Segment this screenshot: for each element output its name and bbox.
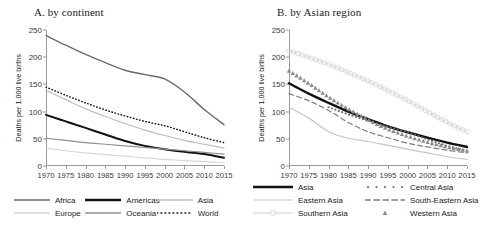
- legend-item-south-eastern-asia[interactable]: South-Eastern Asia: [365, 195, 477, 205]
- x-tick-label: 2000: [399, 171, 416, 180]
- data-point-marker: [338, 110, 340, 112]
- y-tick-label: 250: [29, 26, 42, 35]
- x-tick-label: 2010: [196, 171, 213, 180]
- x-tick-mark: [289, 166, 290, 169]
- data-point-marker: [430, 141, 434, 145]
- legend-key-glyph: [85, 208, 121, 218]
- series-asia: [46, 90, 224, 148]
- legend-item-europe[interactable]: Europe: [14, 208, 85, 218]
- x-tick-mark: [46, 166, 47, 169]
- data-point-marker: [408, 135, 412, 139]
- x-tick-label: 2005: [419, 171, 436, 180]
- y-tick-label: 0: [38, 162, 42, 171]
- plot-area-a: Deaths per 1,000 live births 05010015020…: [46, 30, 224, 166]
- legend-key-glyph: [253, 208, 293, 218]
- series-lines-b: [289, 30, 467, 166]
- x-tick-mark: [86, 166, 87, 169]
- data-point-marker: [421, 136, 423, 138]
- x-tick-mark: [165, 166, 166, 169]
- legend-item-southern-asia[interactable]: Southern Asia: [253, 208, 365, 218]
- y-tick-label: 100: [272, 107, 285, 116]
- legend-label: Americas: [126, 196, 159, 205]
- data-point-marker: [324, 93, 328, 97]
- series-line: [289, 51, 467, 132]
- series-line: [46, 35, 224, 124]
- legend-key-solid-dark-gray-icon: [14, 195, 50, 205]
- data-point-marker: [327, 106, 329, 108]
- series-world: [46, 87, 224, 142]
- legend-item-africa[interactable]: Africa: [14, 195, 85, 205]
- x-tick-label: 1985: [340, 171, 357, 180]
- legend-label: World: [198, 209, 219, 218]
- series-line: [46, 90, 224, 148]
- legend-key-dashed-gray-icon: [365, 195, 405, 205]
- legend-key-glyph: [157, 195, 193, 205]
- plot-area-b: Deaths per 1,000 live births 05010015020…: [289, 30, 467, 166]
- legend-label: South-Eastern Asia: [410, 196, 478, 205]
- legend-key-solid-mid-gray-icon: [85, 208, 121, 218]
- x-tick-mark: [224, 166, 225, 169]
- legend-item-asia[interactable]: Asia: [253, 182, 365, 192]
- data-point-marker: [339, 103, 343, 107]
- data-point-marker: [400, 129, 402, 131]
- legend-item-western-asia[interactable]: Western Asia: [365, 208, 477, 218]
- legend-label: Asia: [198, 196, 214, 205]
- data-point-marker: [306, 81, 310, 85]
- series-lines-a: [46, 30, 224, 166]
- panel-b-by-asian-region: B. by Asian region Deaths per 1,000 live…: [243, 0, 485, 225]
- data-point-marker: [328, 96, 332, 100]
- legend-row: Southern AsiaWestern Asia: [253, 208, 477, 218]
- x-tick-label: 2000: [156, 171, 173, 180]
- data-point-marker: [404, 133, 408, 137]
- legend-key-solid-thin-light-gray-icon: [253, 195, 293, 205]
- x-tick-mark: [348, 166, 349, 169]
- legend-item-eastern-asia[interactable]: Eastern Asia: [253, 195, 365, 205]
- x-tick-mark: [447, 166, 448, 169]
- data-point-marker: [334, 109, 336, 111]
- legend-item-world[interactable]: World: [157, 208, 228, 218]
- legend-item-central-asia[interactable]: Central Asia: [365, 182, 477, 192]
- data-point-marker: [351, 109, 355, 113]
- series-europe: [46, 148, 224, 163]
- y-tick-label: 200: [29, 53, 42, 62]
- x-tick-label: 1980: [320, 171, 337, 180]
- series-line: [46, 87, 224, 142]
- data-point-marker: [294, 73, 298, 77]
- data-point-marker: [447, 145, 451, 149]
- data-point-marker: [309, 83, 313, 87]
- data-point-marker: [417, 137, 421, 141]
- x-tick-mark: [467, 166, 468, 169]
- data-point-marker: [414, 134, 416, 136]
- series-africa: [46, 35, 224, 124]
- legend-row: AfricaAmericasAsia: [14, 195, 228, 205]
- x-tick-label: 1975: [300, 171, 317, 180]
- series-line: [289, 83, 467, 147]
- legend-key-solid-light-gray-icon: [157, 195, 193, 205]
- legend-key-glyph: [85, 195, 121, 205]
- legend-key-line-circle-marker-icon: [253, 208, 293, 218]
- legend-key-glyph: [365, 208, 405, 218]
- legend-key-triangle-marker-icon: [365, 208, 405, 218]
- x-tick-mark: [145, 166, 146, 169]
- legend-label: Europe: [55, 209, 81, 218]
- legend-a: AfricaAmericasAsiaEuropeOceaniaWorld: [14, 195, 228, 221]
- x-tick-label: 1990: [360, 171, 377, 180]
- data-point-marker: [287, 69, 291, 73]
- legend-label: Oceania: [126, 209, 156, 218]
- legend-key-glyph: [157, 208, 193, 218]
- legend-label: Asia: [298, 183, 314, 192]
- legend-label: Southern Asia: [298, 209, 348, 218]
- data-point-marker: [341, 111, 343, 113]
- x-tick-mark: [105, 166, 106, 169]
- y-tick-label: 0: [281, 162, 285, 171]
- legend-item-asia[interactable]: Asia: [157, 195, 228, 205]
- y-tick-label: 250: [272, 26, 285, 35]
- legend-item-oceania[interactable]: Oceania: [85, 208, 156, 218]
- data-point-marker: [397, 128, 399, 130]
- data-point-marker: [348, 113, 350, 115]
- data-point-marker: [332, 98, 336, 102]
- legend-item-americas[interactable]: Americas: [85, 195, 156, 205]
- legend-label: Eastern Asia: [298, 196, 343, 205]
- y-tick-label: 100: [29, 107, 42, 116]
- x-tick-label: 1990: [117, 171, 134, 180]
